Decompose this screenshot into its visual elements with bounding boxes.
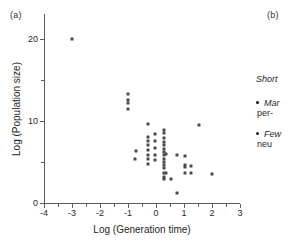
data-point (127, 107, 130, 110)
legend-item: Marper- (256, 98, 293, 119)
data-point (184, 165, 187, 168)
legend-items: Marper-Fewneu (256, 98, 293, 149)
y-tick (40, 121, 44, 122)
legend-item-label-line1: Few (256, 129, 293, 139)
data-point (146, 157, 149, 160)
data-point (146, 136, 149, 139)
data-point (153, 159, 156, 162)
data-point (184, 172, 187, 175)
data-point (153, 153, 156, 156)
data-point (127, 92, 130, 95)
data-point (146, 144, 149, 147)
panel-b-label: (b) (267, 10, 279, 20)
data-point (211, 173, 214, 176)
plot-area: 01020 -4-3-2-10123 (44, 14, 240, 204)
data-point (163, 178, 166, 181)
scatter-figure: (a) (b) Log (Population size) Log (Gener… (0, 0, 293, 247)
x-tick-label: -3 (68, 208, 76, 218)
data-point (164, 152, 167, 155)
y-axis-title-text: Log (Population size) (11, 62, 22, 156)
x-tick-label: -2 (96, 208, 104, 218)
data-point (163, 132, 166, 135)
x-tick-label: 0 (153, 208, 158, 218)
x-tick-minor (198, 204, 199, 207)
legend-item: Fewneu (256, 129, 293, 150)
data-point (184, 155, 187, 158)
legend-item-label-line2: neu (256, 139, 293, 149)
y-tick (40, 39, 44, 40)
x-tick-minor (86, 204, 87, 207)
y-axis-title: Log (Population size) (8, 14, 24, 204)
data-point (146, 123, 149, 126)
data-point (190, 172, 193, 175)
data-point (146, 163, 149, 166)
x-tick-label: -1 (124, 208, 132, 218)
data-point (134, 157, 137, 160)
data-point (170, 178, 173, 181)
data-point (134, 150, 137, 153)
x-tick-minor (58, 204, 59, 207)
data-point (176, 153, 179, 156)
x-tick-label: -4 (40, 208, 48, 218)
data-point (163, 167, 166, 170)
y-tick-label: 20 (28, 34, 38, 44)
legend-item-label-line2: per- (256, 108, 293, 118)
data-point (153, 139, 156, 142)
data-point (146, 153, 149, 156)
data-point (71, 38, 74, 41)
bullet-icon (256, 132, 259, 135)
x-axis-title: Log (Generation time) (44, 224, 240, 235)
legend-item-label-line1: Mar (256, 98, 293, 108)
x-tick-label: 3 (237, 208, 242, 218)
data-point (127, 101, 130, 104)
data-point (163, 137, 166, 140)
legend-heading: Short (256, 74, 293, 84)
data-point (146, 140, 149, 143)
x-tick-label: 2 (209, 208, 214, 218)
y-axis-line (44, 14, 45, 204)
x-tick-minor (142, 204, 143, 207)
x-tick-minor (226, 204, 227, 207)
x-tick-minor (114, 204, 115, 207)
legend: Short Marper-Fewneu (256, 74, 293, 159)
data-point (153, 146, 156, 149)
y-tick-label: 0 (33, 198, 38, 208)
y-tick-minor (41, 80, 44, 81)
data-point (190, 165, 193, 168)
y-tick-label: 10 (28, 116, 38, 126)
data-point (146, 149, 149, 152)
y-tick-minor (41, 162, 44, 163)
data-point (198, 123, 201, 126)
x-tick-label: 1 (181, 208, 186, 218)
data-point (164, 172, 167, 175)
bullet-icon (256, 101, 259, 104)
data-point (176, 192, 179, 195)
x-tick-minor (170, 204, 171, 207)
data-point (153, 132, 156, 135)
